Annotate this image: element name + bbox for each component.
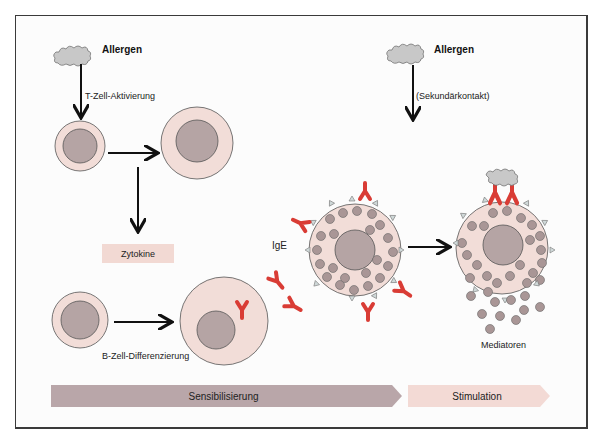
- allergen-cloud-icon: [387, 44, 424, 64]
- allergen-cloud-icon: [54, 46, 91, 66]
- ige-antibody-icon: [268, 272, 303, 314]
- t-cell-small: [55, 121, 105, 171]
- phase-label: Stimulation: [452, 391, 501, 402]
- zytokine-label: Zytokine: [121, 249, 155, 259]
- phase-sensibilisierung: Sensibilisierung: [51, 385, 396, 407]
- phase-stimulation: Stimulation: [408, 385, 546, 407]
- mast-cell-degranulating: [453, 169, 555, 334]
- zytokine-box: Zytokine: [102, 244, 174, 263]
- phase-label: Sensibilisierung: [188, 391, 258, 402]
- allergen-label-secondary: Allergen: [434, 44, 474, 55]
- ige-label: IgE: [272, 240, 287, 251]
- t-cell-activation-label: T-Zell-Aktivierung: [85, 91, 155, 101]
- b-cell-differentiation-label: B-Zell-Differenzierung: [102, 351, 189, 361]
- mediators-label: Mediatoren: [481, 340, 526, 350]
- plasma-cell: [180, 277, 268, 365]
- allergen-label: Allergen: [102, 44, 142, 55]
- mast-cell-sensitized: [291, 183, 413, 320]
- allergy-mechanism-diagram: [0, 0, 602, 442]
- t-cell-activated: [161, 107, 233, 179]
- b-cell-small: [52, 292, 108, 348]
- secondary-contact-label: (Sekundärkontakt): [416, 91, 490, 101]
